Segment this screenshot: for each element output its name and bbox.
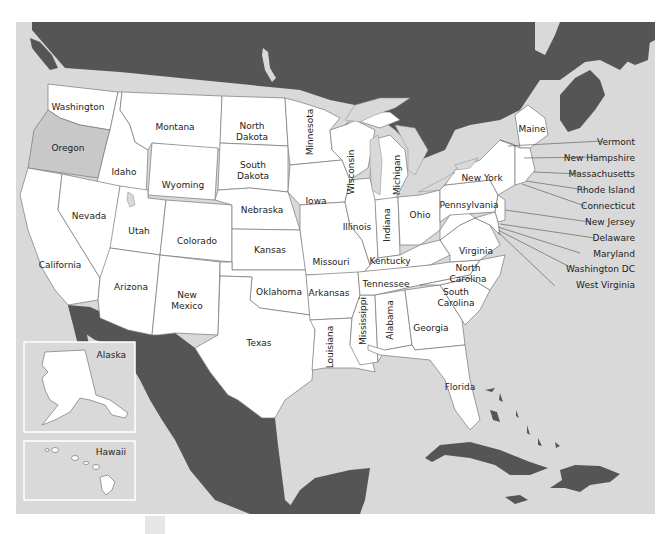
callout-massachusetts: Massachusetts bbox=[568, 169, 635, 179]
label-washington: Washington bbox=[52, 102, 105, 112]
label-arkansas: Arkansas bbox=[308, 288, 349, 298]
label-oregon: Oregon bbox=[51, 143, 84, 153]
label-mississippi: Mississippi bbox=[358, 297, 368, 345]
callout-new-jersey: New Jersey bbox=[585, 217, 636, 227]
label-north-dakota-line1: North bbox=[239, 121, 264, 131]
label-south-dakota-line2: Dakota bbox=[237, 171, 269, 181]
label-iowa: Iowa bbox=[305, 196, 326, 206]
label-minnesota: Minnesota bbox=[305, 109, 315, 155]
label-south-carolina-line2: Carolina bbox=[437, 298, 474, 308]
label-nebraska: Nebraska bbox=[241, 205, 283, 215]
callout-new-hampshire: New Hampshire bbox=[564, 153, 636, 163]
state-colorado[interactable] bbox=[160, 200, 232, 262]
label-south-dakota-line1: South bbox=[240, 160, 266, 170]
label-missouri: Missouri bbox=[312, 257, 349, 267]
label-kansas: Kansas bbox=[254, 245, 286, 255]
label-wisconsin: Wisconsin bbox=[346, 150, 356, 195]
label-alabama: Alabama bbox=[385, 300, 395, 340]
label-idaho: Idaho bbox=[111, 167, 137, 177]
bottom-gray-block bbox=[145, 516, 165, 534]
label-north-carolina-line2: Carolina bbox=[449, 274, 486, 284]
label-tennessee: Tennessee bbox=[362, 279, 410, 289]
label-maine: Maine bbox=[518, 124, 545, 134]
label-pennsylvania: Pennsylvania bbox=[439, 200, 498, 210]
label-texas: Texas bbox=[246, 338, 272, 348]
label-florida: Florida bbox=[445, 382, 476, 392]
label-indiana: Indiana bbox=[382, 208, 392, 241]
label-north-dakota-line2: Dakota bbox=[236, 132, 268, 142]
label-alaska: Alaska bbox=[97, 350, 126, 360]
label-california: California bbox=[39, 260, 82, 270]
callout-washington-dc: Washington DC bbox=[566, 264, 635, 274]
label-hawaii: Hawaii bbox=[96, 447, 126, 457]
callout-maryland: Maryland bbox=[593, 249, 635, 259]
label-wyoming: Wyoming bbox=[162, 180, 204, 190]
label-michigan: Michigan bbox=[392, 155, 402, 195]
alaska-inset: Alaska bbox=[24, 342, 135, 432]
label-colorado: Colorado bbox=[177, 236, 218, 246]
label-new-york: New York bbox=[461, 173, 503, 183]
label-ohio: Ohio bbox=[410, 210, 431, 220]
label-arizona: Arizona bbox=[114, 282, 148, 292]
label-georgia: Georgia bbox=[413, 323, 448, 333]
label-kentucky: Kentucky bbox=[369, 256, 411, 266]
label-illinois: Illinois bbox=[343, 222, 372, 232]
callout-connecticut: Connecticut bbox=[581, 201, 635, 211]
us-states-map: Washington Oregon California Idaho Nevad… bbox=[0, 0, 665, 534]
label-utah: Utah bbox=[128, 226, 149, 236]
callout-vermont: Vermont bbox=[597, 137, 636, 147]
label-north-carolina-line1: North bbox=[455, 263, 480, 273]
label-montana: Montana bbox=[155, 122, 194, 132]
label-new-mexico-line1: New bbox=[177, 290, 197, 300]
label-oklahoma: Oklahoma bbox=[256, 287, 302, 297]
label-new-mexico-line2: Mexico bbox=[171, 301, 203, 311]
state-wyoming[interactable] bbox=[148, 143, 218, 200]
hawaii-inset: Hawaii bbox=[24, 441, 135, 500]
label-louisiana: Louisiana bbox=[325, 326, 335, 369]
callout-west-virginia: West Virginia bbox=[576, 280, 635, 290]
label-virginia: Virginia bbox=[459, 246, 493, 256]
callout-rhode-island: Rhode Island bbox=[577, 185, 635, 195]
label-south-carolina-line1: South bbox=[443, 287, 469, 297]
state-montana[interactable] bbox=[120, 92, 222, 150]
callout-delaware: Delaware bbox=[593, 233, 636, 243]
label-nevada: Nevada bbox=[72, 211, 106, 221]
